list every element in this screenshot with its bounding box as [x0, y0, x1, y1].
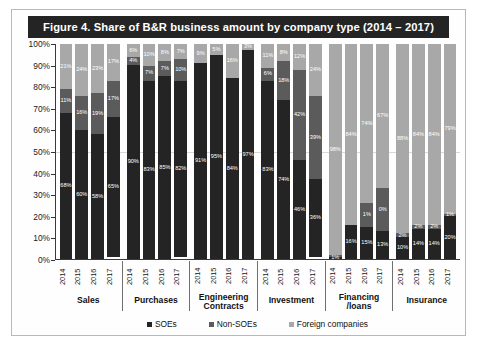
bar-segment-foreign-companies[interactable]: 5% [210, 44, 223, 55]
bar-segment-foreign-companies[interactable]: 6% [127, 44, 140, 57]
bar-segment-foreign-companies[interactable]: 21% [60, 44, 73, 89]
segment-value-label: 19% [92, 111, 103, 117]
x-axis-year-labels: 2014201520162017 [125, 261, 188, 294]
bar-segment-foreign-companies[interactable]: 98% [329, 44, 342, 255]
stacked-bar[interactable]: 12%42%46% [293, 44, 306, 259]
bar-segment-soes[interactable]: 36% [309, 179, 322, 256]
stacked-bar[interactable]: 17%17%65% [107, 44, 120, 259]
bar-segment-non-soes[interactable]: 0% [376, 188, 389, 231]
segment-value-label: 8% [280, 50, 288, 56]
bar-segment-soes[interactable]: 84% [226, 78, 239, 259]
bar-segment-foreign-companies[interactable]: 84% [428, 44, 441, 225]
bar-segment-non-soes[interactable]: 10% [174, 59, 187, 81]
stacked-bar[interactable]: 11%6%83% [261, 44, 274, 259]
bar-segment-soes[interactable]: 1% [329, 257, 342, 259]
legend-item[interactable]: Non-SOEs [209, 319, 257, 329]
x-axis-year-label: 2016 [293, 261, 306, 294]
stacked-bar[interactable]: 79%1%20% [444, 44, 457, 259]
bar-segment-soes[interactable]: 82% [174, 81, 187, 257]
segment-value-label: 58% [92, 194, 103, 200]
x-axis-category-label: Sales [57, 294, 120, 305]
bar-segment-non-soes[interactable]: 7% [143, 66, 156, 81]
stacked-bar[interactable]: 6%4%90% [127, 44, 140, 259]
bar-segment-foreign-companies[interactable]: 16% [226, 44, 239, 78]
bar-segment-soes[interactable]: 83% [143, 81, 156, 259]
bar-segment-soes[interactable]: 14% [412, 229, 425, 259]
stacked-bar[interactable]: 24%39%36% [309, 44, 322, 259]
bar-segment-non-soes[interactable]: 4% [127, 57, 140, 66]
stacked-bar[interactable]: 10%7%83% [143, 44, 156, 259]
bar-segment-non-soes[interactable]: 6% [261, 68, 274, 81]
bar-segment-non-soes[interactable]: 18% [277, 61, 290, 100]
bar-segment-non-soes[interactable]: 16% [75, 96, 88, 130]
stacked-bar[interactable]: 98%1% [329, 44, 342, 259]
bar-segment-foreign-companies[interactable]: 12% [293, 44, 306, 70]
bar-segment-foreign-companies[interactable]: 24% [309, 44, 322, 96]
bar-segment-foreign-companies[interactable]: 10% [143, 44, 156, 66]
bar-segment-soes[interactable]: 74% [277, 100, 290, 259]
bar-segment-soes[interactable]: 58% [91, 134, 104, 259]
bar-segment-non-soes[interactable]: 39% [309, 96, 322, 180]
bar-segment-foreign-companies[interactable]: 11% [261, 44, 274, 68]
bar-segment-foreign-companies[interactable]: 88% [396, 44, 409, 233]
stacked-bar[interactable]: 23%19%58% [91, 44, 104, 259]
stacked-bar[interactable]: 7%10%82% [174, 44, 187, 259]
segment-value-label: 83% [262, 167, 273, 173]
bar-segment-foreign-companies[interactable]: 84% [345, 44, 358, 225]
stacked-bar[interactable]: 84%2%14% [412, 44, 425, 259]
stacked-bar[interactable]: 8%18%74% [277, 44, 290, 259]
bar-segment-soes[interactable]: 65% [107, 117, 120, 257]
bar-segment-soes[interactable]: 16% [345, 225, 358, 259]
legend-item[interactable]: SOEs [147, 319, 177, 329]
bar-segment-foreign-companies[interactable]: 17% [107, 44, 120, 81]
bar-segment-soes[interactable]: 85% [158, 76, 171, 259]
stacked-bar[interactable]: 84%16% [345, 44, 358, 259]
stacked-bar[interactable]: 3%97% [242, 44, 255, 259]
stacked-bar[interactable]: 16%84% [226, 44, 239, 259]
bar-segment-soes[interactable]: 46% [293, 160, 306, 259]
segment-value-label: 7% [161, 66, 169, 72]
bar-segment-soes[interactable]: 10% [396, 237, 409, 259]
stacked-bar[interactable]: 5%95% [210, 44, 223, 259]
stacked-bar[interactable]: 84%2%14% [428, 44, 441, 259]
x-axis-year-labels: 2014201520162017 [260, 261, 323, 294]
bar-segment-foreign-companies[interactable]: 8% [277, 44, 290, 61]
bar-segment-soes[interactable]: 68% [60, 113, 73, 259]
bar-segment-foreign-companies[interactable]: 9% [194, 44, 207, 63]
bar-segment-soes[interactable]: 14% [428, 229, 441, 259]
bar-segment-soes[interactable]: 97% [242, 50, 255, 259]
bar-segment-foreign-companies[interactable]: 74% [360, 44, 373, 203]
bar-segment-soes[interactable]: 90% [127, 65, 140, 259]
stacked-bar[interactable]: 9%91% [194, 44, 207, 259]
segment-value-label: 74% [361, 121, 372, 127]
bar-segment-soes[interactable]: 95% [210, 55, 223, 259]
x-axis: 2014201520162017Sales2014201520162017Pur… [55, 261, 460, 311]
legend-item[interactable]: Foreign companies [289, 319, 368, 329]
stacked-bar[interactable]: 74%1%15% [360, 44, 373, 259]
x-axis-year-label: 2017 [241, 261, 254, 291]
bar-segment-soes[interactable]: 60% [75, 130, 88, 259]
bar-segment-non-soes[interactable]: 7% [158, 61, 171, 76]
bar-segment-foreign-companies[interactable]: 67% [376, 44, 389, 188]
bar-segment-foreign-companies[interactable]: 79% [444, 44, 457, 214]
bar-segment-foreign-companies[interactable]: 7% [174, 44, 187, 59]
bar-segment-soes[interactable]: 20% [444, 216, 457, 259]
bar-segment-non-soes[interactable]: 11% [60, 89, 73, 113]
bar-segment-non-soes[interactable]: 19% [91, 93, 104, 134]
stacked-bar[interactable]: 24%16%60% [75, 44, 88, 259]
bar-segment-non-soes[interactable]: 1% [360, 203, 373, 227]
bar-segment-soes[interactable]: 83% [261, 81, 274, 259]
bar-segment-foreign-companies[interactable]: 24% [75, 44, 88, 96]
stacked-bar[interactable]: 88%2%10% [396, 44, 409, 259]
bar-segment-foreign-companies[interactable]: 8% [158, 44, 171, 61]
stacked-bar[interactable]: 8%7%85% [158, 44, 171, 259]
bar-segment-non-soes[interactable]: 17% [107, 81, 120, 118]
bar-segment-soes[interactable]: 13% [376, 231, 389, 259]
bar-segment-non-soes[interactable]: 42% [293, 70, 306, 160]
stacked-bar[interactable]: 67%0%13% [376, 44, 389, 259]
bar-segment-soes[interactable]: 15% [360, 227, 373, 259]
bar-segment-soes[interactable]: 91% [194, 63, 207, 259]
stacked-bar[interactable]: 21%11%68% [60, 44, 73, 259]
bar-segment-foreign-companies[interactable]: 23% [91, 44, 104, 93]
bar-segment-foreign-companies[interactable]: 84% [412, 44, 425, 225]
